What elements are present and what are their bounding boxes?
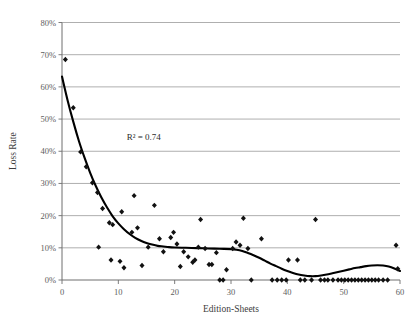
x-tick-label: 50 — [339, 287, 348, 297]
y-tick-label: 80% — [40, 18, 56, 28]
x-axis-title: Edition-Sheets — [203, 304, 259, 314]
x-tick-label: 40 — [283, 287, 292, 297]
y-tick-label: 10% — [40, 243, 56, 253]
y-tick-label: 50% — [40, 114, 56, 124]
x-tick-label: 20 — [170, 287, 179, 297]
y-tick-labels: 0%10%20%30%40%50%60%70%80% — [40, 18, 56, 286]
y-axis-title: Loss Rate — [8, 132, 18, 170]
r-squared-annotation: R² = 0.74 — [127, 132, 162, 142]
y-tick-label: 60% — [40, 82, 56, 92]
chart-container: 0%10%20%30%40%50%60%70%80% 0102030405060… — [0, 0, 420, 323]
y-tick-label: 0% — [45, 275, 56, 285]
y-tick-label: 20% — [40, 211, 56, 221]
y-tick-label: 70% — [40, 50, 56, 60]
x-tick-label: 10 — [114, 287, 123, 297]
chart-annotations: R² = 0.74 — [127, 132, 162, 142]
x-tick-label: 30 — [227, 287, 236, 297]
x-tick-label: 0 — [60, 287, 64, 297]
y-tick-label: 40% — [40, 146, 56, 156]
x-tick-label: 60 — [396, 287, 405, 297]
loss-rate-scatter-chart: 0%10%20%30%40%50%60%70%80% 0102030405060… — [0, 0, 420, 323]
y-tick-label: 30% — [40, 178, 56, 188]
chart-background — [0, 0, 420, 323]
